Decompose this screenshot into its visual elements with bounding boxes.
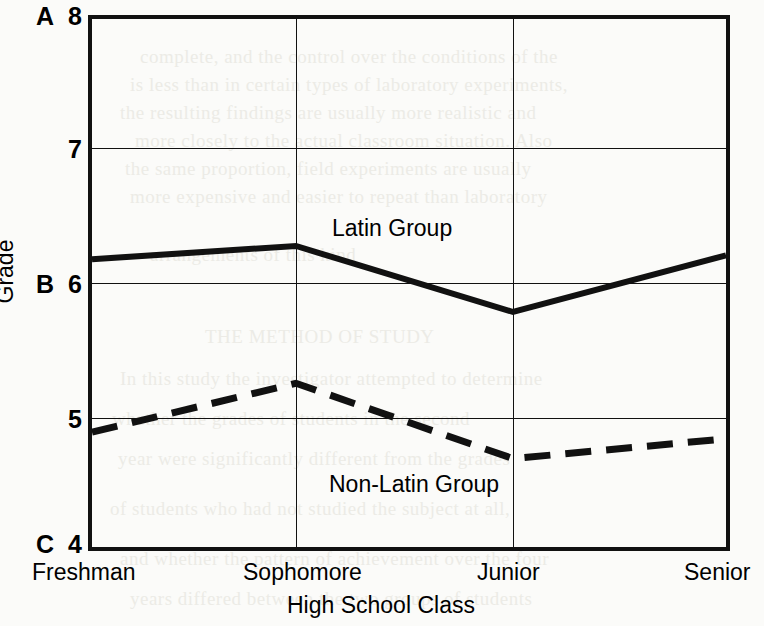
x-tick-junior: Junior xyxy=(477,559,540,586)
y-tick-5: 5 xyxy=(56,405,82,434)
series-label-non-latin-group: Non-Latin Group xyxy=(329,471,499,498)
y-tick-6: 6 xyxy=(56,270,82,299)
plot-area: Latin Group Non-Latin Group xyxy=(88,15,730,551)
series-line-latin-group xyxy=(92,246,726,312)
y-axis-letter-c: C xyxy=(28,530,54,559)
y-axis-title: Grade xyxy=(0,240,19,304)
series-line-non-latin-group xyxy=(92,383,726,458)
x-tick-freshman: Freshman xyxy=(32,559,136,586)
y-axis-letter-b: B xyxy=(28,270,54,299)
series-layer xyxy=(92,19,726,547)
y-tick-8: 8 xyxy=(56,2,82,31)
chart-page: complete, and the control over the condi… xyxy=(0,0,764,626)
x-tick-senior: Senior xyxy=(684,559,750,586)
x-tick-sophomore: Sophomore xyxy=(243,559,362,586)
y-tick-4: 4 xyxy=(56,530,82,559)
x-axis-title: High School Class xyxy=(287,592,475,619)
series-label-latin-group: Latin Group xyxy=(332,215,452,242)
y-tick-7: 7 xyxy=(56,135,82,164)
y-axis-letter-a: A xyxy=(28,2,54,31)
